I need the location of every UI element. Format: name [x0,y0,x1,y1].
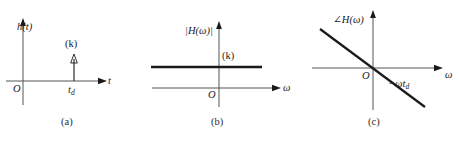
x-axis-arrowhead-c [434,65,443,72]
impulse-position-label-a: td [68,85,75,96]
panel-b-plot [150,0,300,142]
y-axis-label-a: h(t) [17,22,32,33]
origin-label-c: O [362,71,370,82]
impulse-amplitude-label-a: (k) [65,39,77,50]
origin-label-a: O [13,84,21,95]
phase-slope-base-c: −ωt [388,78,405,89]
panel-magnitude-response: |H(ω)| ω O (k) (b) [150,0,300,142]
panel-phase-response: ∠H(ω) ω O −ωtd (c) [300,0,459,142]
y-axis-label-c: ∠H(ω) [333,15,364,26]
y-axis-arrowhead-c [370,10,376,18]
origin-label-b: O [208,90,216,101]
magnitude-level-label-b: (k) [222,51,234,62]
caption-b: (b) [211,117,223,128]
x-axis-arrowhead-a [98,78,107,85]
impulse-position-sub-a: d [71,88,75,97]
y-axis-label-b: |H(ω)| [185,26,213,37]
x-axis-label-c: ω [445,70,452,81]
y-axis-arrowhead-b [216,21,222,29]
x-axis-label-b: ω [283,83,290,94]
phase-slope-label-c: −ωtd [388,79,409,90]
figure-root: h(t) t O (k) td (a) |H(ω)| ω O (k) (b) [0,0,459,142]
x-axis-label-a: t [108,76,111,87]
x-axis-arrowhead-b [272,85,281,92]
panel-impulse-response: h(t) t O (k) td (a) [0,0,150,142]
caption-a: (a) [61,117,73,128]
phase-slope-sub-c: d [405,82,409,91]
caption-c: (c) [368,117,380,128]
